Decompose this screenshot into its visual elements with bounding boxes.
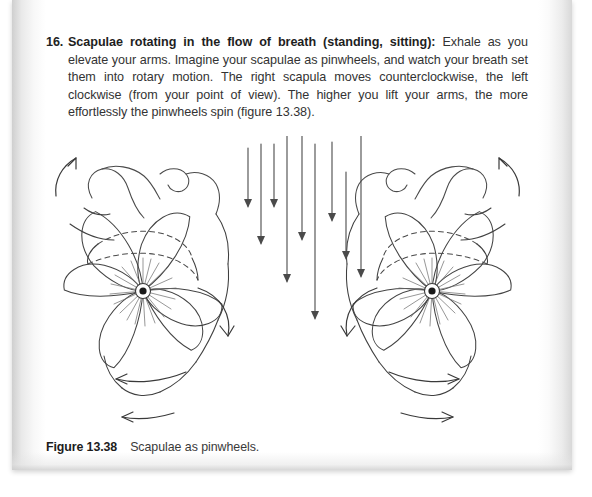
right-motion-arrow-left [341,288,377,336]
right-motion-arrow-bottom [401,412,453,422]
figure-caption-label: Figure 13.38 [46,440,117,454]
right-scapula-pinwheel [341,158,522,422]
book-page-scan: 16. Scapulae rotating in the flow of bre… [0,0,592,497]
left-motion-arrow-bottom [122,412,174,422]
figure-caption-text: Scapulae as pinwheels. [130,440,259,454]
breath-arrow-9 [357,136,365,278]
instruction-number: 16. [46,34,68,52]
instruction-title: Scapulae rotating in the flow of breath … [68,35,435,49]
left-motion-arrow-lower [116,372,186,384]
breath-arrow-3 [270,144,278,208]
figure-illustration [40,136,540,432]
breath-flow-arrows [244,136,365,320]
breath-arrow-2 [257,144,265,245]
instruction-block: 16. Scapulae rotating in the flow of bre… [46,34,528,122]
breath-arrow-7 [328,142,336,222]
left-scapula-pinwheel [53,158,234,422]
left-motion-arrow-right [198,288,234,336]
breath-arrow-5 [298,136,306,241]
breath-arrow-8 [342,172,350,260]
breath-arrow-1 [244,148,252,208]
right-motion-arrow-top [499,158,519,196]
breath-arrow-6 [311,144,319,320]
instruction-text: Scapulae rotating in the flow of breath … [68,34,528,122]
left-motion-arrow-top [56,158,76,196]
breath-arrow-4 [283,136,291,283]
figure-caption: Figure 13.38 Scapulae as pinwheels. [46,440,259,454]
right-motion-arrow-lower [389,372,459,384]
instruction-row: 16. Scapulae rotating in the flow of bre… [46,34,528,122]
